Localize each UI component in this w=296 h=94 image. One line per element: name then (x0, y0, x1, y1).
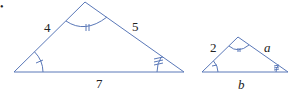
small-left-angle-arc (214, 61, 219, 72)
large-left-angle-tick (36, 60, 43, 63)
small-side-bottom-label: b (238, 77, 245, 92)
similar-triangles-diagram: • 4 5 7 2 a b (0, 0, 296, 94)
small-right-angle-tick-3 (274, 69, 279, 70)
large-side-right-label: 5 (132, 19, 139, 34)
large-side-bottom-label: 7 (96, 76, 103, 91)
small-side-right-label: a (264, 40, 271, 55)
large-right-angle-tick-1 (154, 57, 163, 59)
small-side-left-label: 2 (210, 40, 217, 55)
large-triangle (14, 2, 184, 72)
large-side-left-label: 4 (44, 20, 51, 35)
small-right-angle-arc (276, 65, 279, 72)
small-right-angle-tick-2 (274, 67, 279, 68)
small-apex-angle-arc (229, 45, 249, 50)
bullet: • (0, 1, 4, 12)
